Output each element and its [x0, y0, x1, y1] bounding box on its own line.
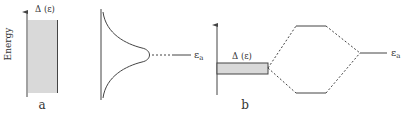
panel-a-label: a	[38, 98, 45, 112]
split-dash-lower-right	[326, 53, 360, 93]
split-dash-lower-left	[268, 68, 296, 93]
diagram: Energy Δ (ε) εa a Δ (ε)	[0, 0, 418, 115]
continuum-band	[28, 20, 57, 93]
narrow-band	[217, 63, 268, 74]
split-dash-upper-left	[268, 26, 296, 68]
band-label-a: Δ (ε)	[35, 4, 55, 14]
band-label-b: Δ (ε)	[232, 51, 252, 61]
split-dash-upper-right	[326, 26, 360, 53]
level-label-b: εa	[391, 47, 400, 60]
level-label-a: εa	[194, 49, 203, 62]
energy-axis-label: Energy	[3, 27, 13, 61]
panel-a: Energy Δ (ε) εa a	[3, 4, 203, 112]
panel-b: Δ (ε) εa b	[217, 25, 400, 112]
panel-b-label: b	[241, 98, 249, 112]
diagram-canvas: Energy Δ (ε) εa a Δ (ε)	[0, 0, 418, 115]
lorentzian-curve	[103, 12, 150, 98]
